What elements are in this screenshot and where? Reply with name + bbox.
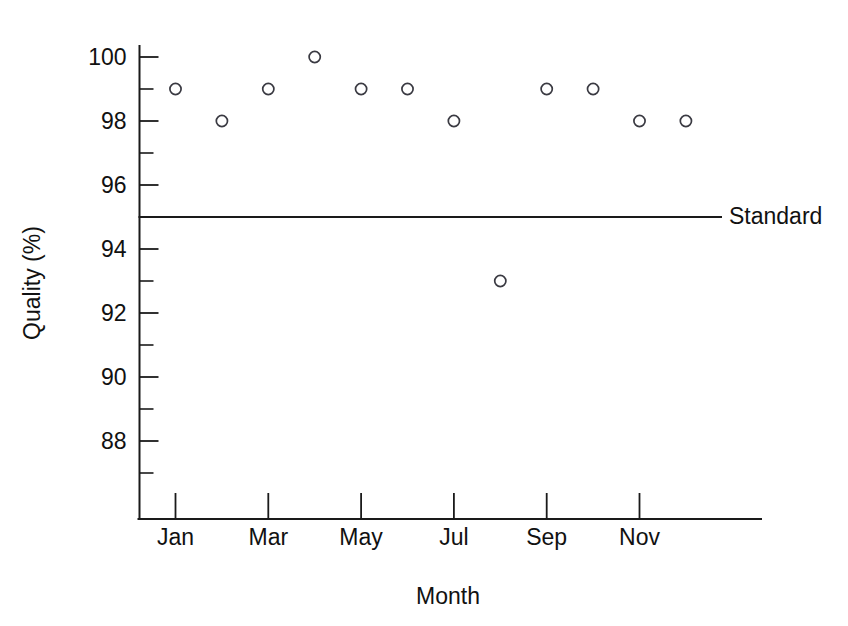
quality-by-month-chart: 100989694929088 JanMarMayJulSepNov Stand… (0, 0, 848, 626)
data-point-marker (541, 83, 552, 94)
y-tick-label: 90 (101, 364, 127, 390)
y-tick-label: 98 (101, 108, 127, 134)
y-axis-title: Quality (%) (19, 226, 45, 340)
data-point-marker (356, 83, 367, 94)
data-point-marker (170, 83, 181, 94)
y-axis-ticks (140, 57, 159, 473)
x-tick-label: Jul (439, 524, 468, 550)
data-point-marker (680, 115, 691, 126)
x-tick-label: May (339, 524, 383, 550)
x-axis-ticks (176, 493, 640, 519)
y-tick-label: 94 (101, 236, 127, 262)
x-tick-label: Mar (248, 524, 288, 550)
x-tick-label: Jan (157, 524, 194, 550)
data-point-marker (448, 115, 459, 126)
data-point-marker (309, 51, 320, 62)
y-tick-label: 100 (88, 44, 126, 70)
y-axis-tick-labels: 100989694929088 (88, 44, 127, 454)
reference-line-group: Standard (139, 203, 823, 229)
x-tick-label: Sep (526, 524, 567, 550)
data-point-group (170, 51, 692, 286)
x-axis-tick-labels: JanMarMayJulSepNov (157, 524, 660, 550)
y-tick-label: 92 (101, 300, 127, 326)
data-point-marker (263, 83, 274, 94)
x-axis-title: Month (416, 583, 480, 609)
data-point-marker (402, 83, 413, 94)
y-tick-label: 96 (101, 172, 127, 198)
data-point-marker (634, 115, 645, 126)
chart-canvas: 100989694929088 JanMarMayJulSepNov Stand… (0, 0, 848, 626)
x-tick-label: Nov (619, 524, 660, 550)
data-point-marker (495, 275, 506, 286)
y-tick-label: 88 (101, 428, 127, 454)
data-point-marker (216, 115, 227, 126)
data-point-marker (588, 83, 599, 94)
standard-line-label: Standard (729, 203, 822, 229)
